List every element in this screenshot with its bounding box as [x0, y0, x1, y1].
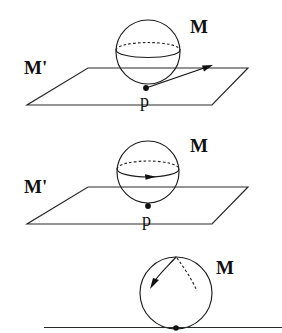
- label-plane-M-prime-2: M': [24, 176, 47, 197]
- label-plane-M-prime-1: M': [24, 57, 47, 78]
- figure-container: M M' p M M' p: [0, 0, 282, 333]
- label-manifold-M-3: M: [216, 257, 234, 278]
- tangent-point-dot-2: [145, 203, 151, 209]
- contact-point-dot-3: [173, 325, 179, 331]
- label-point-p-1: p: [140, 91, 149, 111]
- geometry-figure: M M' p M M' p: [0, 0, 282, 333]
- label-point-p-2: p: [142, 210, 151, 230]
- label-manifold-M-2: M: [190, 135, 208, 156]
- label-manifold-M-1: M: [190, 16, 208, 37]
